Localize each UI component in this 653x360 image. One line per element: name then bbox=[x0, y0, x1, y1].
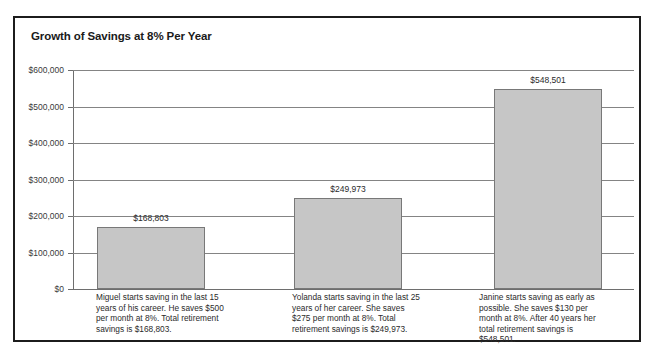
ytick-mark-0 bbox=[68, 289, 73, 290]
ytick-label-500000: $500,000 bbox=[29, 102, 64, 112]
gridline-0 bbox=[73, 289, 634, 290]
ytick-mark-100000 bbox=[68, 253, 73, 254]
caption-janine: Janine starts saving as early as possibl… bbox=[479, 292, 611, 345]
ytick-mark-200000 bbox=[68, 216, 73, 217]
bar-yolanda[interactable] bbox=[294, 198, 402, 289]
bar-miguel[interactable] bbox=[97, 227, 205, 289]
ytick-label-300000: $300,000 bbox=[29, 175, 64, 185]
bar-janine[interactable] bbox=[494, 89, 602, 289]
caption-yolanda: Yolanda starts saving in the last 25 yea… bbox=[292, 292, 424, 334]
caption-miguel: Miguel starts saving in the last 15 year… bbox=[96, 292, 228, 334]
ytick-label-0: $0 bbox=[55, 284, 64, 294]
chart-title: Growth of Savings at 8% Per Year bbox=[31, 30, 212, 42]
chart-figure: Growth of Savings at 8% Per Year $600,00… bbox=[13, 16, 641, 342]
ytick-mark-400000 bbox=[68, 143, 73, 144]
bar-value-miguel: $168,803 bbox=[133, 213, 168, 223]
ytick-mark-600000 bbox=[68, 70, 73, 71]
bar-value-janine: $548,501 bbox=[530, 75, 565, 85]
ytick-label-100000: $100,000 bbox=[29, 248, 64, 258]
bar-value-yolanda: $249,973 bbox=[330, 184, 365, 194]
ytick-mark-300000 bbox=[68, 180, 73, 181]
ytick-label-200000: $200,000 bbox=[29, 211, 64, 221]
gridline-600000 bbox=[73, 70, 634, 71]
ytick-label-600000: $600,000 bbox=[29, 65, 64, 75]
plot-area: $600,000 $500,000 $400,000 $300,000 $200… bbox=[73, 70, 634, 289]
ytick-label-400000: $400,000 bbox=[29, 138, 64, 148]
ytick-mark-500000 bbox=[68, 107, 73, 108]
